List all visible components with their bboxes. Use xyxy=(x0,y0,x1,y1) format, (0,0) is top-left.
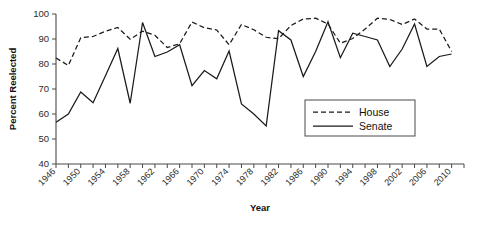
chart-container: 405060708090100 194619501954195819621966… xyxy=(0,0,478,227)
x-tick-label: 1986 xyxy=(283,166,304,187)
x-tick-label: 1962 xyxy=(135,166,156,187)
y-tick-label: 50 xyxy=(38,133,49,144)
y-tick-label: 40 xyxy=(38,158,49,169)
x-tick-label: 1970 xyxy=(185,166,206,187)
x-tick-label: 1974 xyxy=(209,166,230,187)
y-tick-label: 60 xyxy=(38,108,49,119)
y-axis-tick-group: 405060708090100 xyxy=(33,8,56,169)
x-tick-label: 1954 xyxy=(86,166,107,187)
x-tick-label: 1998 xyxy=(358,166,379,187)
x-tick-label: 2006 xyxy=(407,166,428,187)
x-tick-label: 1966 xyxy=(160,166,181,187)
x-tick-label: 2010 xyxy=(432,166,453,187)
x-axis-tick-group: 1946195019541958196219661970197419781982… xyxy=(36,164,464,188)
x-tick-label: 1946 xyxy=(36,166,57,187)
x-tick-label: 1950 xyxy=(61,166,82,187)
x-tick-label: 1982 xyxy=(259,166,280,187)
y-axis-title: Percent Reelected xyxy=(7,48,18,131)
y-tick-label: 90 xyxy=(38,33,49,44)
legend-label-senate: Senate xyxy=(359,120,392,132)
x-tick-label: 1978 xyxy=(234,166,255,187)
x-tick-label: 1990 xyxy=(308,166,329,187)
x-axis-title: Year xyxy=(250,202,270,213)
x-tick-label: 1958 xyxy=(110,166,131,187)
series-line-house xyxy=(56,18,452,65)
y-tick-label: 100 xyxy=(33,8,49,19)
reelection-rate-line-chart: 405060708090100 194619501954195819621966… xyxy=(0,0,478,227)
x-tick-label: 1994 xyxy=(333,166,354,187)
x-tick-label: 2002 xyxy=(382,166,403,187)
y-tick-label: 70 xyxy=(38,83,49,94)
chart-legend: House Senate xyxy=(305,100,415,136)
legend-label-house: House xyxy=(359,106,390,118)
y-tick-label: 80 xyxy=(38,58,49,69)
